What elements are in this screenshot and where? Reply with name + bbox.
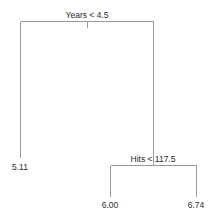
decision-tree-figure: Years < 4.5 Hits < 117.5 5.11 6.00 6.74 xyxy=(0,0,218,220)
tree-canvas: Years < 4.5 Hits < 117.5 5.11 6.00 6.74 xyxy=(0,0,218,220)
leaf-label-right: 6.74 xyxy=(188,200,205,210)
root-split-label: Years < 4.5 xyxy=(66,10,109,20)
hits-split-label: Hits < 117.5 xyxy=(131,154,176,164)
leaf-label-middle: 6.00 xyxy=(102,200,119,210)
leaf-label-left: 5.11 xyxy=(12,162,28,172)
